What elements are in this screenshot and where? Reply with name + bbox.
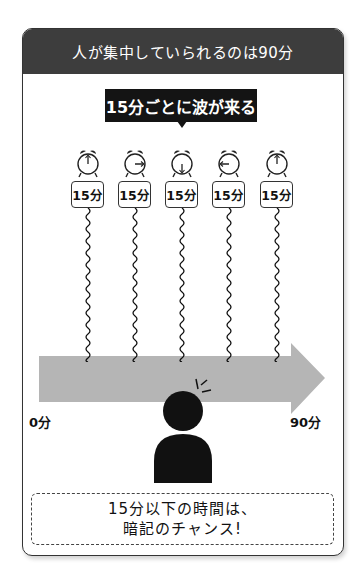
interval-label: 15分 xyxy=(166,185,196,204)
wave-line xyxy=(178,208,186,362)
alarm-clock-icon xyxy=(75,146,101,180)
interval-box: 15分 xyxy=(260,181,293,208)
wave-line xyxy=(273,208,281,362)
person-icon xyxy=(151,375,215,483)
interval-box: 15分 xyxy=(212,181,245,208)
wave-line xyxy=(131,208,139,362)
alarm-clock-icon xyxy=(169,146,195,180)
callout-banner: 15分ごとに波が来る xyxy=(105,89,257,122)
header-title: 人が集中していられるのは90分 xyxy=(72,41,294,62)
alarm-clock-icon xyxy=(264,146,290,180)
interval-box: 15分 xyxy=(71,181,104,208)
interval-label: 15分 xyxy=(213,185,243,204)
interval-box: 15分 xyxy=(118,181,151,208)
callout-label: 15分ごとに波が来る xyxy=(106,94,256,118)
timeline-start-label: 0分 xyxy=(29,412,51,431)
interval-label: 15分 xyxy=(261,185,291,204)
wave-line xyxy=(84,208,92,362)
wave-line xyxy=(225,208,233,362)
note-line-1: 15分以下の時間は、 xyxy=(108,499,257,519)
timeline-end-label: 90分 xyxy=(290,412,321,431)
note-box: 15分以下の時間は、 暗記のチャンス! xyxy=(31,493,334,545)
callout-tail xyxy=(177,121,187,128)
alarm-clock-icon xyxy=(216,146,242,180)
card-header: 人が集中していられるのは90分 xyxy=(23,29,343,74)
interval-box: 15分 xyxy=(165,181,198,208)
alarm-clock-icon xyxy=(122,146,148,180)
interval-label: 15分 xyxy=(72,185,102,204)
interval-label: 15分 xyxy=(119,185,149,204)
diagram-card: 人が集中していられるのは90分 15分ごとに波が来る 15分 15分 15分 xyxy=(22,28,344,556)
note-line-2: 暗記のチャンス! xyxy=(123,519,242,539)
